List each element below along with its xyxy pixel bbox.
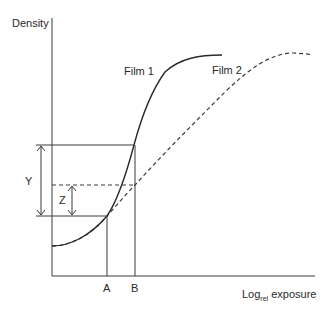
z-marker-label: Z bbox=[59, 194, 66, 206]
x-axis-label-tail: exposure bbox=[268, 288, 316, 300]
film-2-label: Film 2 bbox=[212, 64, 242, 76]
y-axis-label: Density bbox=[12, 17, 49, 29]
characteristic-curve-diagram: Density Logrel exposure Y Z Film 1 Film … bbox=[0, 0, 329, 314]
x-axis-label-main: Log bbox=[242, 288, 260, 300]
film-1-label: Film 1 bbox=[124, 65, 154, 77]
y-marker-label: Y bbox=[25, 175, 33, 187]
film-1-curve bbox=[52, 55, 222, 246]
a-marker-label: A bbox=[103, 282, 111, 294]
film-2-curve bbox=[52, 53, 313, 246]
b-marker-label: B bbox=[131, 282, 138, 294]
x-axis-label: Logrel exposure bbox=[242, 288, 316, 302]
